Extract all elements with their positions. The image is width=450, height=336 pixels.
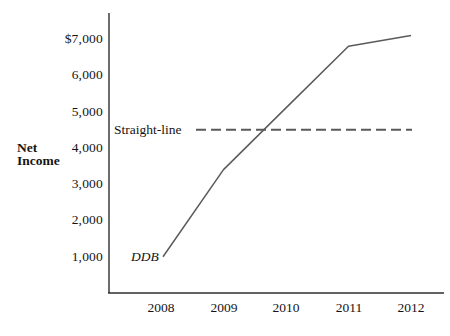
x-tick-label: 2010 — [254, 299, 318, 317]
ddb-line — [163, 35, 411, 256]
y-axis-title: Net Income — [17, 141, 73, 167]
net-income-chart: $7,000 6,000 5,000 4,000 3,000 2,000 1,0… — [0, 0, 450, 336]
ddb-label: DDB — [131, 249, 159, 265]
x-tick-label: 2012 — [379, 299, 443, 317]
y-tick-label: 1,000 — [28, 248, 103, 266]
x-tick-label: 2011 — [317, 299, 381, 317]
plot-area — [0, 0, 450, 336]
y-tick-label: $7,000 — [28, 30, 103, 48]
x-tick-label: 2008 — [129, 299, 193, 317]
straight-line-label: Straight-line — [114, 122, 182, 138]
y-tick-label: 6,000 — [28, 66, 103, 84]
x-tick-label: 2009 — [192, 299, 256, 317]
y-tick-label: 3,000 — [28, 175, 103, 193]
y-tick-label: 5,000 — [28, 103, 103, 121]
y-tick-label: 2,000 — [28, 211, 103, 229]
